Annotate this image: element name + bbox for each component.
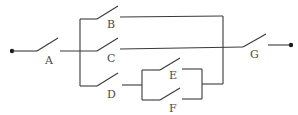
branch-c: C [97, 38, 243, 65]
switch-c-label: C [107, 52, 115, 65]
switch-g-blade [243, 34, 266, 47]
switch-a-label: A [44, 54, 54, 67]
switch-b-label: B [107, 18, 115, 31]
switch-c-blade [97, 38, 118, 51]
switch-g: G [243, 34, 266, 61]
switch-f-blade [160, 88, 180, 100]
wire-c-to-g [120, 47, 243, 49]
switch-a-blade [37, 38, 58, 51]
switch-g-label: G [250, 48, 259, 61]
right-terminal-dot [289, 43, 293, 47]
ef-parallel-block: E F [142, 58, 223, 115]
switch-d-blade [97, 73, 118, 86]
circuit-diagram: A B C D E F G [0, 0, 298, 115]
switch-d-label: D [107, 88, 116, 101]
switch-f-label: F [169, 102, 177, 115]
switch-a: A [37, 38, 58, 67]
wire-b-to-right-bus [120, 16, 223, 17]
switch-e-label: E [169, 69, 177, 82]
branch-b: B [80, 6, 223, 31]
branch-d: D [80, 73, 142, 101]
